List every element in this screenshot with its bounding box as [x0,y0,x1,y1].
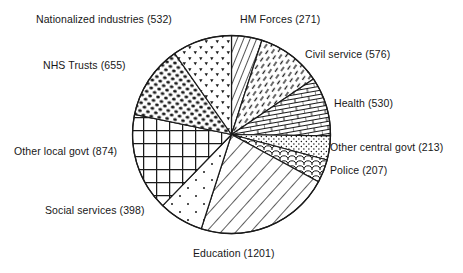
slice-label-health: Health (530) [334,98,393,110]
slice-label-police: Police (207) [330,165,387,177]
pie-slices-group [132,35,330,233]
slice-label-nationalized-industries: Nationalized industries (532) [36,14,172,26]
slice-label-civil-service: Civil service (576) [305,49,390,61]
pie-chart-figure: Nationalized industries (532) HM Forces … [0,0,463,273]
slice-label-nhs-trusts: NHS Trusts (655) [43,60,126,72]
slice-label-hm-forces: HM Forces (271) [240,14,320,26]
slice-label-education: Education (1201) [193,248,275,260]
pie-chart-svg [0,0,463,273]
slice-label-other-local-govt: Other local govt (874) [14,146,117,158]
slice-label-social-services: Social services (398) [45,205,145,217]
slice-label-other-central-govt: Other central govt (213) [330,142,443,154]
